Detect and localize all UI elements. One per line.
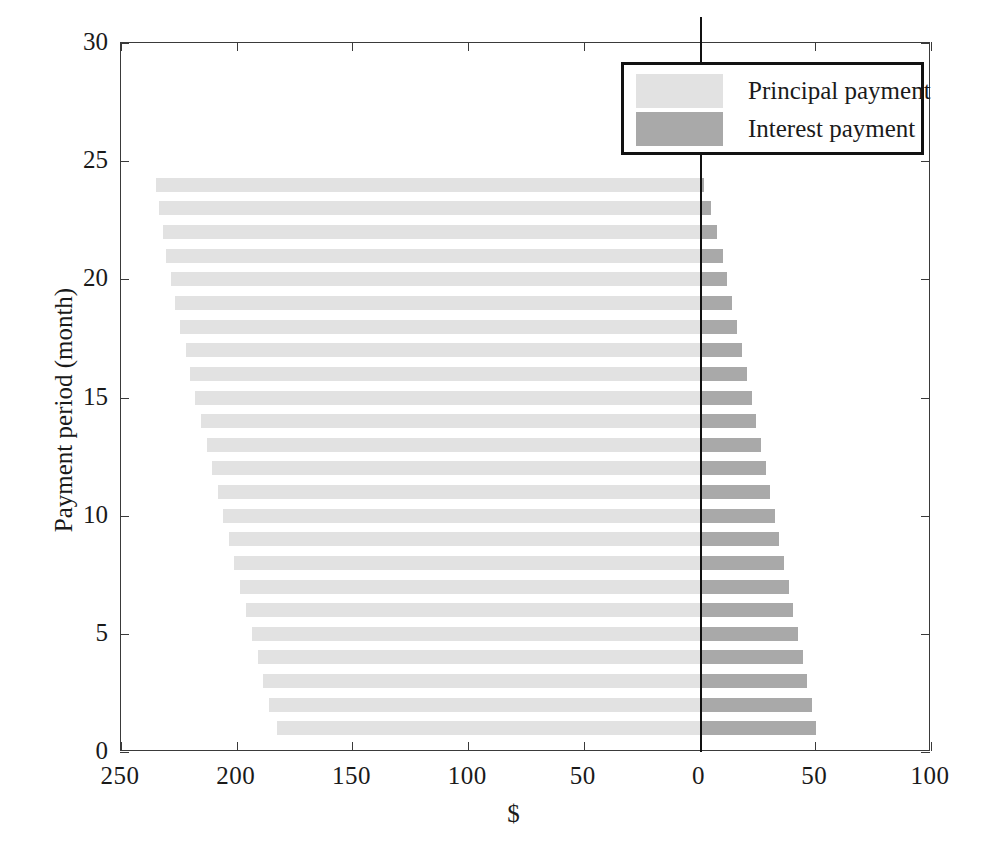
bar-interest-payment <box>700 367 747 381</box>
bar-row <box>121 320 929 334</box>
y-axis-tick-label-text: 5 <box>96 619 109 647</box>
bar-principal-payment <box>166 249 699 263</box>
y-axis-tick-right <box>921 161 930 162</box>
bar-interest-payment <box>700 225 717 239</box>
x-axis-tick <box>237 742 238 751</box>
y-axis-tick-label-text: 0 <box>96 737 109 765</box>
x-axis-tick <box>352 742 353 751</box>
bar-interest-payment <box>700 698 812 712</box>
bar-row <box>121 674 929 688</box>
bar-interest-payment <box>700 721 817 735</box>
x-axis-tick-label: 150 <box>332 762 371 790</box>
bar-row <box>121 485 929 499</box>
bar-interest-payment <box>700 461 766 475</box>
bar-row <box>121 414 929 428</box>
bar-principal-payment <box>186 343 700 357</box>
bar-row <box>121 509 929 523</box>
x-axis-tick <box>584 742 585 751</box>
x-axis-title: $ <box>0 800 982 828</box>
bar-principal-payment <box>180 320 700 334</box>
bar-principal-payment <box>175 296 699 310</box>
bar-interest-payment <box>700 532 780 546</box>
x-axis-tick-top <box>352 42 353 51</box>
bar-principal-payment <box>234 556 699 570</box>
bar-interest-payment <box>700 580 789 594</box>
x-axis-tick-label: 0 <box>692 762 705 790</box>
y-axis-tick <box>120 752 129 753</box>
bar-row <box>121 296 929 310</box>
bar-interest-payment <box>700 391 752 405</box>
bar-principal-payment <box>269 698 699 712</box>
bar-principal-payment <box>223 509 700 523</box>
bar-row <box>121 580 929 594</box>
y-axis-tick <box>120 279 129 280</box>
bar-interest-payment <box>700 485 771 499</box>
bar-interest-payment <box>700 296 732 310</box>
bar-row <box>121 650 929 664</box>
y-axis-tick-right <box>921 43 930 44</box>
bar-interest-payment <box>700 272 728 286</box>
y-axis-tick-right <box>921 752 930 753</box>
bar-interest-payment <box>700 249 723 263</box>
bar-interest-payment <box>700 509 775 523</box>
bar-principal-payment <box>195 391 700 405</box>
x-axis-tick <box>931 742 932 751</box>
y-axis-tick-label-text: 15 <box>83 383 108 411</box>
y-axis-tick-right <box>921 634 930 635</box>
x-axis-tick-label: 50 <box>801 762 827 790</box>
bar-principal-payment <box>190 367 699 381</box>
x-axis-tick-top <box>931 42 932 51</box>
x-axis-tick-label: 200 <box>216 762 255 790</box>
legend-swatch-interest <box>636 112 723 146</box>
y-axis-tick-label-text: 10 <box>83 501 108 529</box>
x-axis-tick-top <box>584 42 585 51</box>
bar-principal-payment <box>258 650 700 664</box>
legend-label: Principal payment <box>748 77 931 105</box>
bar-row <box>121 698 929 712</box>
legend-swatch-principal <box>636 74 723 108</box>
x-axis-tick-label: 250 <box>101 762 140 790</box>
bar-interest-payment <box>700 650 803 664</box>
bar-principal-payment <box>212 461 699 475</box>
bar-principal-payment <box>201 414 700 428</box>
bar-row <box>121 391 929 405</box>
x-axis-tick <box>121 742 122 751</box>
legend-label: Interest payment <box>748 115 915 143</box>
chart-figure: 25020015010050050100 051015202530 $ Paym… <box>0 0 982 856</box>
bar-interest-payment <box>700 627 798 641</box>
bar-row <box>121 556 929 570</box>
bar-interest-payment <box>700 556 784 570</box>
bar-principal-payment <box>252 627 700 641</box>
x-axis-tick-label: 50 <box>570 762 596 790</box>
y-axis-tick-right <box>921 516 930 517</box>
bar-row <box>121 461 929 475</box>
x-axis-tick-top <box>237 42 238 51</box>
y-axis-tick-label-text: 25 <box>83 146 108 174</box>
bar-interest-payment <box>700 603 794 617</box>
bar-principal-payment <box>229 532 700 546</box>
bar-row <box>121 367 929 381</box>
bar-interest-payment <box>700 343 743 357</box>
bar-principal-payment <box>156 178 700 192</box>
y-axis-tick <box>120 43 129 44</box>
y-axis-tick-right <box>921 398 930 399</box>
bar-principal-payment <box>218 485 699 499</box>
x-axis-tick-label: 100 <box>911 762 950 790</box>
bar-row <box>121 249 929 263</box>
y-axis-tick <box>120 634 129 635</box>
bar-interest-payment <box>700 674 808 688</box>
chart-legend: Principal paymentInterest payment <box>621 62 924 155</box>
bar-principal-payment <box>163 225 700 239</box>
y-axis-tick-right <box>921 279 930 280</box>
bar-principal-payment <box>263 674 699 688</box>
x-axis-tick <box>468 742 469 751</box>
bar-principal-payment <box>240 580 699 594</box>
y-axis-title: Payment period (month) <box>50 90 78 730</box>
bar-interest-payment <box>700 414 757 428</box>
bar-interest-payment <box>700 320 737 334</box>
bar-row <box>121 721 929 735</box>
legend-entry: Principal payment <box>624 72 921 110</box>
bar-principal-payment <box>207 438 700 452</box>
bar-row <box>121 532 929 546</box>
bar-row <box>121 438 929 452</box>
